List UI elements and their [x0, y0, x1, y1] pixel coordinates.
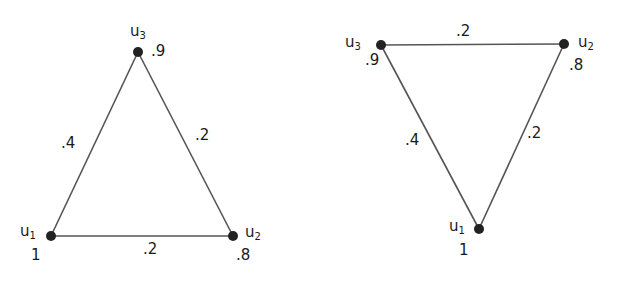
edge-u3-u2 — [381, 44, 564, 45]
node-weight-u3: .9 — [151, 44, 165, 59]
edge-weight-u3-u2: .2 — [456, 24, 470, 39]
edge-weight-u1-u2: .2 — [143, 242, 157, 257]
graph-canvas — [0, 0, 618, 284]
node-label-u3: u3 — [345, 35, 361, 52]
node-u1 — [46, 231, 56, 241]
edge-u2-u1 — [479, 44, 564, 229]
node-u3 — [133, 47, 143, 57]
edge-weight-u3-u2: .2 — [195, 128, 209, 143]
edge-weight-u2-u1: .2 — [527, 126, 541, 141]
edge-u3-u2 — [138, 52, 233, 236]
node-weight-u2: .8 — [569, 58, 583, 73]
node-label-u2: u2 — [245, 225, 261, 242]
node-label-u2: u2 — [578, 35, 594, 52]
node-weight-u1: 1 — [31, 248, 41, 263]
node-u1 — [474, 224, 484, 234]
edge-weight-u1-u3: .4 — [61, 136, 75, 151]
node-u2 — [228, 231, 238, 241]
node-weight-u3: .9 — [365, 53, 379, 68]
node-label-u1: u1 — [449, 219, 465, 236]
node-label-u1: u1 — [20, 224, 36, 241]
edge-u3-u1 — [381, 45, 479, 229]
node-weight-u2: .8 — [236, 248, 250, 263]
node-u3 — [376, 40, 386, 50]
edge-weight-u3-u1: .4 — [405, 133, 419, 148]
node-weight-u1: 1 — [459, 243, 469, 258]
node-u2 — [559, 39, 569, 49]
node-label-u3: u3 — [130, 24, 146, 41]
